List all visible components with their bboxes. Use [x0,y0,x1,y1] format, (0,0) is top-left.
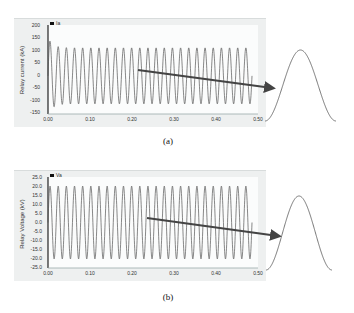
y-tick: 25.0 [20,174,42,180]
y-tick: -15.0 [20,246,42,252]
y-tick: 10.0 [20,201,42,207]
y-tick: 0 [18,72,40,78]
y-tick: -50 [18,84,40,90]
y-axis-label-a: Relay current (kA) [19,35,25,105]
y-tick: 5.0 [20,210,42,216]
y-tick: 15.0 [20,192,42,198]
y-tick: 100 [18,47,40,53]
y-tick: 50 [18,59,40,65]
y-tick: 0.0 [20,219,42,225]
x-tick: 0.20 [122,116,142,122]
enlarged-cycle-b [266,196,332,270]
plot-area-a [48,25,258,114]
y-tick: -5.0 [20,228,42,234]
x-tick: 0.30 [164,116,184,122]
caption-a: (a) [148,136,188,146]
enlarged-cycle-a [265,50,336,121]
caption-b: (b) [148,292,188,302]
x-tick: 0.20 [122,270,142,276]
x-tick: 0.10 [80,116,100,122]
y-tick: -20.0 [20,255,42,261]
y-tick: 20.0 [20,183,42,189]
x-tick: 0.50 [248,270,268,276]
y-tick: -150 [18,109,40,115]
y-tick: 150 [18,34,40,40]
waveform-a [48,25,258,114]
x-tick: 0.40 [206,116,226,122]
y-tick: -100 [18,97,40,103]
chart-panel-a: Ia Relay current (kA) 200 150 100 50 0 -… [14,18,266,127]
x-tick: 0.10 [80,270,100,276]
chart-panel-b: Va Relay Voltage (kV) 25.0 20.0 15.0 10.… [14,170,266,281]
waveform-b [48,177,258,268]
x-tick: 0.30 [164,270,184,276]
x-tick: 0.40 [206,270,226,276]
x-tick: 0.00 [38,270,58,276]
x-tick: 0.00 [38,116,58,122]
y-tick: -10.0 [20,237,42,243]
x-tick: 0.50 [248,116,268,122]
plot-area-b [48,177,258,268]
y-tick: 200 [18,22,40,28]
